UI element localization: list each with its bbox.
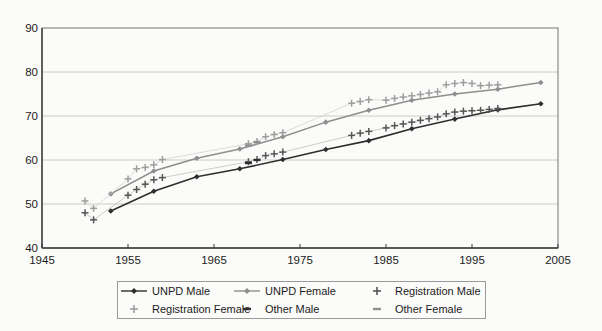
unpd-male-line-diamond-marker-icon xyxy=(121,285,147,297)
x-axis-tick-label: 1955 xyxy=(115,254,141,266)
registration-female-plus-marker-icon xyxy=(121,303,147,315)
other-female-dash-marker-icon xyxy=(364,303,390,315)
series-unpd-female-line xyxy=(111,83,541,194)
x-axis-tick-label: 1945 xyxy=(29,254,55,266)
plot-frame xyxy=(42,28,558,248)
series-unpd-female-marker xyxy=(452,91,458,97)
y-axis-tick-label: 80 xyxy=(25,66,38,78)
registration-male-plus-marker-icon xyxy=(364,285,390,297)
legend-label: Other Male xyxy=(265,303,319,315)
legend-item-other-male: Other Male xyxy=(234,303,364,315)
y-axis-tick-label: 70 xyxy=(25,110,38,122)
series-unpd-female-marker xyxy=(366,107,372,113)
series-unpd-male-marker xyxy=(452,116,458,122)
legend-item-registration-male: Registration Male xyxy=(364,285,486,297)
series-unpd-male-marker xyxy=(538,101,544,107)
legend-item-other-female: Other Female xyxy=(364,303,486,315)
series-registration-male-line xyxy=(85,109,498,220)
x-axis-tick-label: 1995 xyxy=(459,254,485,266)
series-unpd-male-marker xyxy=(237,166,243,172)
series-unpd-female-marker xyxy=(237,146,243,152)
series-unpd-female-marker xyxy=(323,119,329,125)
legend-item-unpd-female: UNPD Female xyxy=(234,285,364,297)
series-unpd-female-marker xyxy=(151,168,157,174)
legend-label: UNPD Male xyxy=(152,285,210,297)
chart-figure: 1945195519651975198519952005405060708090… xyxy=(0,0,602,331)
x-axis-tick-label: 1975 xyxy=(287,254,313,266)
x-axis-tick-label: 1985 xyxy=(373,254,399,266)
series-unpd-male-marker xyxy=(366,138,372,144)
y-axis-tick-label: 60 xyxy=(25,154,38,166)
series-unpd-male-marker xyxy=(280,157,286,163)
series-unpd-male-marker xyxy=(409,126,415,132)
x-axis-tick-label: 2005 xyxy=(545,254,571,266)
legend-label: Registration Male xyxy=(395,285,481,297)
chart-legend: UNPD Male UNPD Female Registration Male … xyxy=(117,281,486,319)
other-male-dash-marker-icon xyxy=(234,303,260,315)
y-axis-tick-label: 50 xyxy=(25,198,38,210)
y-axis-tick-label: 40 xyxy=(25,242,38,254)
series-registration-female-line xyxy=(85,83,498,209)
series-unpd-male-marker xyxy=(151,188,157,194)
unpd-female-line-diamond-marker-icon xyxy=(234,285,260,297)
x-axis-tick-label: 1965 xyxy=(201,254,227,266)
y-axis-tick-label: 90 xyxy=(25,22,38,34)
series-unpd-female-marker xyxy=(538,80,544,86)
legend-item-unpd-male: UNPD Male xyxy=(121,285,234,297)
legend-label: UNPD Female xyxy=(265,285,336,297)
legend-item-registration-female: Registration Female xyxy=(121,303,234,315)
series-unpd-male-marker xyxy=(194,174,200,180)
series-unpd-male-marker xyxy=(323,147,329,153)
legend-label: Other Female xyxy=(395,303,462,315)
